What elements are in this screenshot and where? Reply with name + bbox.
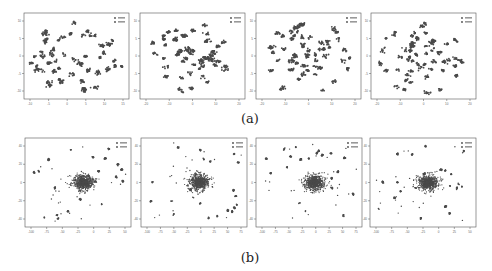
scatter-plot: -100-75-50-25025507540200-20-40 xyxy=(256,138,362,227)
svg-text:10: 10 xyxy=(134,19,138,23)
svg-text:0: 0 xyxy=(438,230,440,234)
svg-text:-50: -50 xyxy=(60,230,65,234)
scatter-plot: -10-50510151050-5-10 xyxy=(24,13,129,99)
svg-text:-5: -5 xyxy=(47,102,50,106)
svg-text:-40: -40 xyxy=(363,217,368,221)
svg-text:-10: -10 xyxy=(249,89,254,93)
svg-text:-10: -10 xyxy=(398,102,403,106)
svg-text:20: 20 xyxy=(237,102,241,106)
svg-text:50: 50 xyxy=(468,230,472,234)
svg-text:40: 40 xyxy=(135,144,139,148)
svg-text:0: 0 xyxy=(135,54,137,58)
scatter-plot: -100-75-50-250255040200-20-40 xyxy=(370,138,476,227)
svg-text:-25: -25 xyxy=(421,230,426,234)
svg-text:40: 40 xyxy=(364,144,368,148)
svg-text:5: 5 xyxy=(135,37,137,41)
svg-text:20: 20 xyxy=(353,102,357,106)
caption-b: (b) xyxy=(230,250,270,265)
svg-text:-20: -20 xyxy=(363,199,368,203)
svg-text:-10: -10 xyxy=(167,102,172,106)
svg-text:20: 20 xyxy=(364,162,368,166)
svg-text:-20: -20 xyxy=(260,102,265,106)
svg-text:10: 10 xyxy=(330,102,334,106)
scatter-plot: -20-10010201050-5-10 xyxy=(371,13,476,99)
svg-text:5: 5 xyxy=(366,37,368,41)
svg-text:10: 10 xyxy=(250,19,254,23)
svg-text:20: 20 xyxy=(19,162,23,166)
svg-text:-10: -10 xyxy=(283,102,288,106)
svg-text:-50: -50 xyxy=(172,230,177,234)
svg-text:-40: -40 xyxy=(249,217,254,221)
svg-text:50: 50 xyxy=(226,230,230,234)
svg-text:-5: -5 xyxy=(365,72,368,76)
svg-text:0: 0 xyxy=(19,54,21,58)
svg-text:-25: -25 xyxy=(76,230,81,234)
svg-text:-50: -50 xyxy=(405,230,410,234)
svg-text:-20: -20 xyxy=(144,102,149,106)
svg-text:0: 0 xyxy=(308,102,310,106)
scatter-plot: -20-10010201050-5-10 xyxy=(256,13,361,99)
svg-text:-100: -100 xyxy=(144,230,150,234)
svg-text:20: 20 xyxy=(250,162,254,166)
svg-text:0: 0 xyxy=(20,181,22,185)
svg-text:-10: -10 xyxy=(17,89,22,93)
svg-text:-75: -75 xyxy=(389,230,394,234)
svg-text:0: 0 xyxy=(136,181,138,185)
svg-text:-40: -40 xyxy=(18,217,23,221)
svg-text:0: 0 xyxy=(365,181,367,185)
scatter-plot: -20-10010201050-5-10 xyxy=(140,13,245,99)
svg-text:5: 5 xyxy=(85,102,87,106)
svg-text:0: 0 xyxy=(200,230,202,234)
svg-text:40: 40 xyxy=(19,144,23,148)
svg-text:-20: -20 xyxy=(249,199,254,203)
scatter-plot: -100-75-50-25025507540200-20-40 xyxy=(141,138,247,227)
svg-text:50: 50 xyxy=(123,230,127,234)
svg-text:0: 0 xyxy=(93,230,95,234)
svg-text:0: 0 xyxy=(66,102,68,106)
svg-text:10: 10 xyxy=(18,19,22,23)
svg-text:0: 0 xyxy=(251,181,253,185)
svg-text:0: 0 xyxy=(251,54,253,58)
svg-text:-75: -75 xyxy=(158,230,163,234)
svg-text:10: 10 xyxy=(365,19,369,23)
svg-text:-10: -10 xyxy=(133,89,138,93)
svg-text:0: 0 xyxy=(366,54,368,58)
svg-text:5: 5 xyxy=(251,37,253,41)
svg-text:0: 0 xyxy=(315,230,317,234)
caption-a: (a) xyxy=(230,111,270,126)
svg-text:10: 10 xyxy=(445,102,449,106)
svg-text:50: 50 xyxy=(341,230,345,234)
svg-text:-50: -50 xyxy=(287,230,292,234)
svg-text:-40: -40 xyxy=(134,217,139,221)
svg-text:-10: -10 xyxy=(364,89,369,93)
svg-text:0: 0 xyxy=(423,102,425,106)
svg-text:75: 75 xyxy=(239,230,243,234)
svg-text:-10: -10 xyxy=(28,102,33,106)
svg-text:10: 10 xyxy=(103,102,107,106)
svg-text:-25: -25 xyxy=(185,230,190,234)
svg-text:-20: -20 xyxy=(375,102,380,106)
svg-text:-5: -5 xyxy=(134,72,137,76)
scatter-plot: -100-75-50-250255040200-20-40 xyxy=(25,138,131,227)
svg-text:-100: -100 xyxy=(28,230,34,234)
svg-text:20: 20 xyxy=(135,162,139,166)
svg-text:10: 10 xyxy=(214,102,218,106)
svg-text:75: 75 xyxy=(354,230,358,234)
svg-text:-100: -100 xyxy=(373,230,379,234)
svg-text:5: 5 xyxy=(19,37,21,41)
svg-text:-5: -5 xyxy=(250,72,253,76)
svg-text:-100: -100 xyxy=(259,230,265,234)
svg-text:25: 25 xyxy=(453,230,457,234)
svg-text:-5: -5 xyxy=(18,72,21,76)
svg-text:25: 25 xyxy=(108,230,112,234)
svg-text:40: 40 xyxy=(250,144,254,148)
svg-text:15: 15 xyxy=(121,102,125,106)
svg-text:-75: -75 xyxy=(273,230,278,234)
svg-text:-75: -75 xyxy=(44,230,49,234)
svg-text:25: 25 xyxy=(327,230,331,234)
svg-text:25: 25 xyxy=(212,230,216,234)
svg-text:0: 0 xyxy=(192,102,194,106)
svg-text:-20: -20 xyxy=(134,199,139,203)
svg-text:-20: -20 xyxy=(18,199,23,203)
svg-text:20: 20 xyxy=(468,102,472,106)
